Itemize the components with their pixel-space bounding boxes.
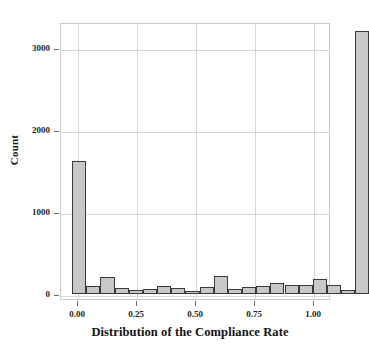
y-tick-label: 0 — [2, 289, 50, 299]
histogram-bar — [200, 287, 214, 294]
histogram-bar — [242, 287, 256, 294]
histogram-bar — [143, 289, 157, 294]
y-tick-mark — [54, 131, 59, 132]
histogram-bar — [129, 290, 143, 294]
x-axis-title: Distribution of the Compliance Rate — [40, 325, 340, 340]
y-tick-mark — [54, 295, 59, 296]
y-tick-mark — [54, 213, 59, 214]
histogram-bar — [341, 290, 355, 294]
x-tick-mark — [77, 301, 78, 306]
y-tick-label: 3000 — [2, 43, 50, 53]
x-tick-label: 0.75 — [234, 309, 274, 319]
histogram-bar — [313, 279, 327, 294]
histogram-bar — [327, 285, 341, 294]
histogram-bar — [72, 161, 86, 294]
histogram-bar — [157, 286, 171, 294]
x-tick-mark — [313, 301, 314, 306]
histogram-bar — [285, 285, 299, 294]
y-tick-label: 2000 — [2, 125, 50, 135]
histogram-bar — [100, 277, 114, 294]
histogram-bar — [299, 285, 313, 294]
y-tick-label: 1000 — [2, 207, 50, 217]
histogram-bar — [86, 286, 100, 294]
histogram-bar — [185, 291, 199, 294]
bars-container — [61, 24, 329, 299]
x-tick-mark — [254, 301, 255, 306]
histogram-bar — [214, 276, 228, 294]
x-tick-label: 0.50 — [175, 309, 215, 319]
histogram-bar — [355, 31, 369, 294]
plot-area — [60, 23, 330, 300]
histogram-bar — [228, 289, 242, 294]
x-tick-label: 0.25 — [116, 309, 156, 319]
x-tick-label: 1.00 — [293, 309, 333, 319]
x-tick-mark — [136, 301, 137, 306]
histogram-bar — [270, 283, 284, 294]
histogram-bar — [171, 288, 185, 294]
histogram-bar — [115, 288, 129, 294]
y-axis-title-text: Count — [8, 135, 20, 165]
x-tick-mark — [195, 301, 196, 306]
x-tick-label: 0.00 — [57, 309, 97, 319]
y-tick-mark — [54, 49, 59, 50]
histogram-bar — [256, 286, 270, 294]
